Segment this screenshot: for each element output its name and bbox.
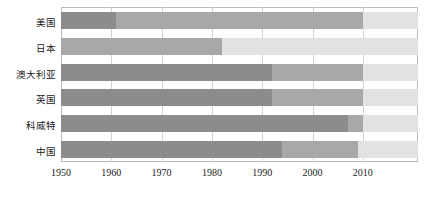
bar-chart: 美国日本澳大利亚英国科威特中国 195019601970198019902000…	[0, 0, 429, 199]
bar-segment-light	[358, 141, 418, 158]
bar-segment-medium	[116, 12, 362, 29]
bar-segment-medium	[272, 64, 363, 81]
bar-segment-light	[363, 115, 418, 132]
bar-segment-light	[363, 89, 418, 106]
gridline-1990	[262, 7, 263, 162]
tick-label-2010: 2010	[343, 167, 383, 178]
bar-segment-dark	[61, 89, 272, 106]
bar-row	[0, 12, 429, 29]
tick-label-1960: 1960	[91, 167, 131, 178]
tick-label-2000: 2000	[293, 167, 333, 178]
bar-segment-medium	[348, 115, 363, 132]
bar-segment-medium	[282, 141, 357, 158]
bar-row	[0, 115, 429, 132]
category-label-4: 科威特	[0, 118, 56, 132]
bar-row	[0, 64, 429, 81]
bar-segment-dark	[61, 12, 116, 29]
bar-segment-dark	[61, 141, 282, 158]
category-label-2: 澳大利亚	[0, 67, 56, 81]
tick-label-1980: 1980	[192, 167, 232, 178]
tick-label-1990: 1990	[242, 167, 282, 178]
tick-label-1970: 1970	[142, 167, 182, 178]
bar-segment-light	[222, 38, 418, 55]
bar-segment-medium	[61, 38, 222, 55]
tick-label-1950: 1950	[41, 167, 81, 178]
bar-segment-dark	[61, 64, 272, 81]
bar-segment-light	[363, 64, 418, 81]
category-label-5: 中国	[0, 144, 56, 158]
bar-row	[0, 89, 429, 106]
bar-segment-light	[363, 12, 418, 29]
category-label-3: 英国	[0, 92, 56, 106]
gridline-1950	[61, 7, 62, 162]
bar-segment-dark	[61, 115, 348, 132]
bar-row	[0, 38, 429, 55]
plot-area	[61, 7, 418, 162]
gridline-1970	[162, 7, 163, 162]
gridline-1980	[212, 7, 213, 162]
category-label-0: 美国	[0, 15, 56, 29]
gridline-1960	[111, 7, 112, 162]
gridline-2000	[313, 7, 314, 162]
category-label-1: 日本	[0, 41, 56, 55]
gridline-2010	[363, 7, 364, 162]
bar-segment-medium	[272, 89, 363, 106]
bar-row	[0, 141, 429, 158]
